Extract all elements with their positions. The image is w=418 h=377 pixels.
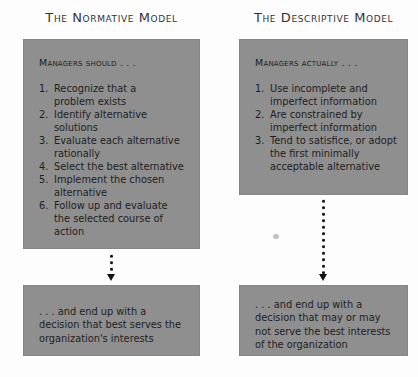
normative-outcome-box: . . . and end up with a decision that be… — [23, 285, 200, 356]
descriptive-steps-box: Managers actually . . . 1.Use incomplete… — [239, 39, 408, 195]
normative-outcome-text: . . . and end up with a decision that be… — [39, 305, 189, 345]
smudge-mark — [273, 234, 279, 239]
descriptive-outcome-box: . . . and end up with a decision that ma… — [239, 285, 408, 356]
descriptive-outcome-text: . . . and end up with a decision that ma… — [255, 298, 395, 352]
list-item: 6.Follow up and evaluate the selected co… — [39, 199, 174, 238]
list-item: 5.Implement the chosen alternative — [39, 173, 174, 199]
arrowhead-down-icon — [319, 274, 327, 281]
normative-model-title: The Normative Model — [23, 10, 200, 25]
dotted-line-icon — [110, 253, 113, 274]
list-item: 4.Select the best alternative — [39, 160, 204, 173]
normative-steps-list: 1.Recognize that a problem exists 2.Iden… — [39, 82, 204, 238]
descriptive-model-title: The Descriptive Model — [239, 10, 408, 25]
normative-heading: Managers should . . . — [39, 57, 136, 68]
list-item: 2.Identify alternative solutions — [39, 108, 172, 134]
descriptive-heading: Managers actually . . . — [255, 57, 358, 68]
dotted-line-icon — [322, 198, 325, 274]
normative-arrow — [107, 253, 115, 283]
list-item: 1.Use incomplete and imperfect informati… — [255, 82, 390, 108]
list-item: 2.Are constrained by imperfect informati… — [255, 108, 390, 134]
list-item: 1.Recognize that a problem exists — [39, 82, 179, 108]
list-item: 3.Tend to satisfice, or adopt the first … — [255, 134, 405, 173]
list-item: 3.Evaluate each alternative rationally — [39, 134, 194, 160]
arrowhead-down-icon — [107, 274, 115, 281]
descriptive-arrow — [319, 198, 327, 283]
normative-steps-box: Managers should . . . 1.Recognize that a… — [23, 39, 200, 249]
descriptive-steps-list: 1.Use incomplete and imperfect informati… — [255, 82, 405, 173]
